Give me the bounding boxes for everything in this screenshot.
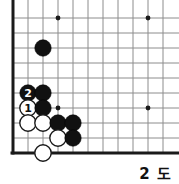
stone-white[interactable] bbox=[35, 145, 51, 161]
stone-black[interactable] bbox=[35, 40, 51, 56]
stone-white[interactable] bbox=[20, 115, 36, 131]
white-stone[interactable] bbox=[35, 115, 51, 131]
stone-black-move-2[interactable]: 2 bbox=[20, 85, 36, 101]
black-stone[interactable] bbox=[65, 130, 81, 146]
white-stone[interactable] bbox=[50, 130, 66, 146]
black-stone[interactable] bbox=[35, 40, 51, 56]
black-stone[interactable] bbox=[35, 100, 51, 116]
go-board[interactable]: 21 bbox=[0, 0, 179, 184]
stone-black[interactable] bbox=[35, 85, 51, 101]
stone-black[interactable] bbox=[35, 100, 51, 116]
white-stone[interactable] bbox=[20, 115, 36, 131]
black-stone[interactable] bbox=[35, 85, 51, 101]
black-stone[interactable] bbox=[65, 115, 81, 131]
stone-white[interactable] bbox=[50, 130, 66, 146]
star-point bbox=[146, 106, 151, 111]
white-stone[interactable] bbox=[35, 145, 51, 161]
go-diagram-figure: 21 2 도 bbox=[0, 0, 179, 184]
stone-black[interactable] bbox=[65, 115, 81, 131]
stone-move-number: 2 bbox=[24, 87, 32, 100]
stone-white[interactable] bbox=[35, 115, 51, 131]
star-point bbox=[56, 16, 61, 21]
star-point bbox=[56, 106, 61, 111]
stone-black[interactable] bbox=[50, 115, 66, 131]
figure-caption: 2 도 bbox=[139, 167, 172, 182]
black-stone[interactable] bbox=[50, 115, 66, 131]
stone-white-move-1[interactable]: 1 bbox=[20, 100, 36, 116]
stone-move-number: 1 bbox=[24, 102, 32, 115]
star-point bbox=[146, 16, 151, 21]
stone-black[interactable] bbox=[65, 130, 81, 146]
